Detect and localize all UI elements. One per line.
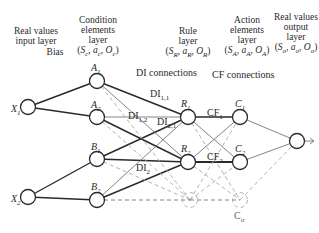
node-x1	[21, 100, 36, 115]
label-r1: R1	[181, 98, 191, 112]
edge-c1-out	[240, 117, 297, 141]
label-r2: R2	[181, 143, 191, 157]
header-rule-layer: Rulelayer (SR, aR, OR)	[158, 26, 218, 60]
edge-x1-a1	[28, 81, 97, 107]
edge-c2-out	[240, 141, 297, 162]
label-x2: X2	[11, 193, 21, 207]
label-b2: B2	[91, 181, 101, 195]
label-di21: DI2,1	[157, 116, 176, 130]
label-di11: DI1,1	[150, 88, 169, 102]
node-output	[290, 134, 305, 149]
edge-x2-b2	[28, 197, 97, 200]
label-c2: C2	[235, 143, 245, 157]
label-di2: DI2	[136, 162, 150, 176]
header-output-layer: Real valuesoutputlayer (So, ao, Oo)	[268, 12, 319, 56]
label-c1: C1	[235, 98, 245, 112]
header-condition-layer: Conditionelementslayer (Sc, ac, Oc)	[70, 15, 126, 59]
node-x2	[21, 190, 36, 205]
header-input-layer: Real valuesinput layer	[6, 26, 66, 46]
edge-x2-b1	[28, 159, 97, 197]
di-connections-label: DI connections	[136, 67, 197, 78]
label-di12: DI1,2	[128, 110, 147, 124]
edge-x1-a2	[28, 107, 97, 117]
label-x1: X1	[11, 103, 21, 117]
label-c-alpha: Cα	[234, 210, 244, 224]
cf-connections-label: CF connections	[212, 69, 275, 80]
label-cf1: CF1	[207, 107, 223, 121]
label-cf2: CF2	[207, 151, 223, 165]
label-b1: B1	[91, 141, 101, 155]
header-bias: Bias	[40, 47, 70, 57]
label-a1: A1	[91, 62, 101, 76]
label-a2: A2	[91, 99, 101, 113]
